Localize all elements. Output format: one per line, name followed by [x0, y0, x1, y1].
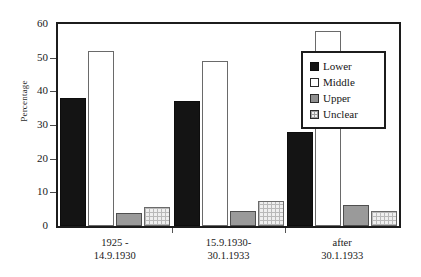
- bar-lower-2: [174, 101, 200, 226]
- legend-label-lower: Lower: [323, 60, 352, 72]
- y-tick-label: 10: [0, 186, 48, 197]
- legend-item-unclear[interactable]: Unclear: [310, 106, 378, 122]
- legend-swatch-lower-icon: [310, 62, 319, 71]
- legend-label-upper: Upper: [323, 92, 351, 104]
- y-tick-label: 0: [0, 220, 48, 231]
- x-axis-label-3: after30.1.1933: [282, 236, 402, 262]
- legend-swatch-unclear-icon: [310, 110, 319, 119]
- x-tick-mark: [285, 228, 286, 233]
- bar-middle-1: [88, 51, 114, 226]
- bar-middle-2: [202, 61, 228, 226]
- x-tick-mark: [172, 228, 173, 233]
- x-axis-label-line: 15.9.1930-: [169, 236, 289, 249]
- x-axis-label-2: 15.9.1930-30.1.1933: [169, 236, 289, 262]
- bar-chart-figure: Percentage 6050403020100 Lower Middle Up…: [0, 0, 421, 277]
- x-axis-label-line: 1925 -: [55, 236, 175, 249]
- legend-box: Lower Middle Upper Unclear: [301, 51, 386, 129]
- y-tick-label: 30: [0, 119, 48, 130]
- bar-lower-1: [60, 98, 86, 226]
- plot-area: Lower Middle Upper Unclear: [56, 22, 401, 228]
- legend-swatch-middle-icon: [310, 78, 319, 87]
- x-axis-label-1: 1925 -14.9.1930: [55, 236, 175, 262]
- bar-upper-2: [230, 211, 256, 226]
- x-axis-label-line: 30.1.1933: [282, 249, 402, 262]
- bar-upper-1: [116, 213, 142, 226]
- x-axis-label-line: after: [282, 236, 402, 249]
- legend-item-middle[interactable]: Middle: [310, 74, 378, 90]
- y-axis-title: Percentage: [19, 53, 29, 149]
- bar-unclear-2: [258, 201, 284, 226]
- y-tick-label: 60: [0, 18, 48, 29]
- bar-lower-3: [287, 132, 313, 226]
- bar-unclear-1: [144, 207, 170, 226]
- legend-item-upper[interactable]: Upper: [310, 90, 378, 106]
- legend-swatch-upper-icon: [310, 94, 319, 103]
- legend-label-middle: Middle: [323, 76, 355, 88]
- y-tick-label: 20: [0, 153, 48, 164]
- y-tick-label: 50: [0, 52, 48, 63]
- legend-label-unclear: Unclear: [323, 108, 358, 120]
- legend-item-lower[interactable]: Lower: [310, 58, 378, 74]
- x-axis-label-line: 30.1.1933: [169, 249, 289, 262]
- bar-unclear-3: [371, 211, 397, 226]
- bar-upper-3: [343, 205, 369, 226]
- x-axis-label-line: 14.9.1930: [55, 249, 175, 262]
- y-tick-label: 40: [0, 85, 48, 96]
